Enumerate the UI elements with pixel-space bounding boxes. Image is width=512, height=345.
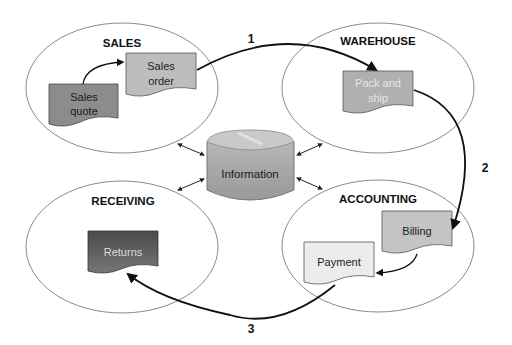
department-label-receiving: RECEIVING (91, 195, 154, 207)
database-cylinder-icon (207, 130, 294, 200)
document-label: Sales (147, 60, 175, 72)
document-label: order (148, 75, 174, 87)
information-database: Information (207, 130, 294, 200)
document-label: quote (70, 105, 98, 117)
business-process-diagram: SALES WAREHOUSE RECEIVING ACCOUNTING Inf… (0, 0, 512, 345)
connector-accounting-database (297, 178, 322, 189)
information-label: Information (221, 168, 279, 180)
document-billing: Billing (382, 211, 452, 253)
step-number-1: 1 (248, 32, 255, 46)
connector-sales-database (178, 144, 204, 155)
department-label-accounting: ACCOUNTING (339, 193, 417, 205)
document-returns: Returns (88, 231, 158, 273)
document-label: Pack and (355, 77, 401, 89)
step-number-3: 3 (248, 322, 255, 336)
step-number-2: 2 (482, 161, 489, 175)
flow-arrow-billing-to-payment (377, 254, 417, 273)
document-sales-quote: Sales quote (49, 84, 118, 126)
department-label-warehouse: WAREHOUSE (340, 35, 416, 47)
document-payment: Payment (304, 242, 374, 284)
flow-arrow-quote-to-order (83, 62, 123, 84)
department-label-sales: SALES (103, 37, 142, 49)
document-label: Payment (317, 256, 360, 268)
document-pack-and-ship: Pack and ship (343, 71, 413, 113)
flow-arrow-step-1 (197, 44, 376, 70)
document-label: Billing (402, 225, 431, 237)
document-label: Sales (70, 91, 98, 103)
connector-warehouse-database (297, 144, 322, 155)
document-label: Returns (104, 246, 143, 258)
connector-receiving-database (178, 179, 204, 190)
document-label: ship (368, 92, 388, 104)
flow-arrow-step-2 (414, 90, 465, 228)
document-sales-order: Sales order (126, 53, 196, 96)
